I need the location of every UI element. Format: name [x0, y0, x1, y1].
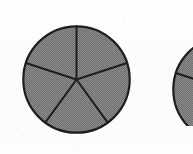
- fraction-circle-b: [171, 34, 193, 126]
- figure-canvas: [0, 0, 193, 154]
- fraction-circle-a: [21, 24, 132, 135]
